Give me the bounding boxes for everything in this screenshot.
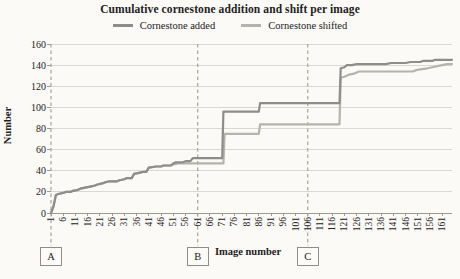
x-tick-label: 86 xyxy=(254,217,264,227)
x-tick-label: 101 xyxy=(291,217,301,231)
y-tick-label: 80 xyxy=(18,123,46,134)
x-tick-label: 91 xyxy=(266,217,276,227)
marker-box-b: B xyxy=(187,247,209,266)
x-tick-label: 126 xyxy=(352,217,362,231)
x-tick-label: 26 xyxy=(107,217,117,227)
x-tick-label: 36 xyxy=(132,217,142,227)
x-tick-label: 16 xyxy=(83,217,93,227)
x-tick-label: 51 xyxy=(168,217,178,227)
x-tick-label: 21 xyxy=(95,217,105,227)
y-tick-label: 40 xyxy=(18,165,46,176)
y-tick-label: 100 xyxy=(18,102,46,113)
x-tick-label: 31 xyxy=(119,217,129,227)
x-tick-label: 66 xyxy=(205,217,215,227)
marker-box-c: C xyxy=(297,247,319,266)
x-tick-label: 6 xyxy=(58,217,68,222)
plot-area xyxy=(0,0,460,279)
y-tick-label: 20 xyxy=(18,186,46,197)
x-tick-label: 71 xyxy=(217,217,227,227)
x-tick-label: 116 xyxy=(327,217,337,231)
x-tick-label: 11 xyxy=(70,217,80,226)
x-tick-label: 76 xyxy=(229,217,239,227)
x-tick-label: 131 xyxy=(364,217,374,231)
x-tick-label: 56 xyxy=(180,217,190,227)
x-tick-label: 111 xyxy=(315,217,325,231)
x-tick-label: 61 xyxy=(193,217,203,227)
x-tick-label: 161 xyxy=(437,217,447,231)
x-tick-label: 1 xyxy=(46,217,56,222)
x-tick-label: 156 xyxy=(425,217,435,231)
x-tick-label: 46 xyxy=(156,217,166,227)
x-tick-label: 151 xyxy=(413,217,423,231)
x-tick-label: 96 xyxy=(278,217,288,227)
x-tick-label: 146 xyxy=(401,217,411,231)
chart-figure: Cumulative cornestone addition and shift… xyxy=(0,0,460,279)
x-tick-label: 136 xyxy=(376,217,386,231)
y-tick-label: 60 xyxy=(18,144,46,155)
y-tick-label: 0 xyxy=(18,208,46,219)
y-tick-label: 160 xyxy=(18,39,46,50)
x-tick-label: 141 xyxy=(388,217,398,231)
x-tick-label: 106 xyxy=(303,217,313,231)
y-tick-label: 140 xyxy=(18,60,46,71)
x-axis-title: Image number xyxy=(208,246,288,257)
x-tick-label: 41 xyxy=(144,217,154,227)
x-tick-label: 121 xyxy=(339,217,349,231)
x-tick-label: 81 xyxy=(242,217,252,227)
marker-box-a: A xyxy=(40,247,62,266)
y-tick-label: 120 xyxy=(18,81,46,92)
